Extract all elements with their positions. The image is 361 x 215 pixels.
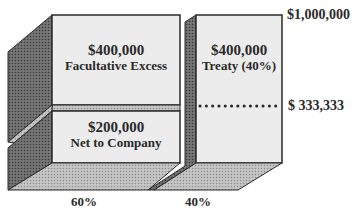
top-limit-label: $1,000,000 — [287, 7, 350, 23]
facultative-label: $400,000 Facultative Excess — [52, 42, 180, 74]
right-share-label: 40% — [185, 194, 211, 210]
facultative-name: Facultative Excess — [52, 59, 180, 74]
facultative-amount: $400,000 — [52, 42, 180, 59]
treaty-amount: $400,000 — [196, 42, 282, 59]
net-label: $200,000 Net to Company — [52, 119, 180, 151]
retention-limit-label: $ 333,333 — [288, 98, 344, 114]
treaty-label: $400,000 Treaty (40%) — [196, 42, 282, 74]
net-name: Net to Company — [52, 136, 180, 151]
net-amount: $200,000 — [52, 119, 180, 136]
left-share-label: 60% — [71, 194, 97, 210]
treaty-name: Treaty (40%) — [196, 59, 282, 74]
